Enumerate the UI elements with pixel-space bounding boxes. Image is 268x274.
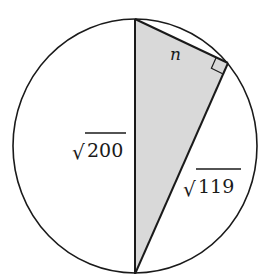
label-sqrt-119: √ 119 (183, 169, 241, 201)
svg-text:√: √ (72, 140, 85, 164)
shaded-triangle (135, 19, 228, 274)
label-sqrt-200: √ 200 (72, 133, 126, 164)
diagram-canvas: n √ 200 √ 119 (0, 0, 268, 274)
svg-text:119: 119 (198, 175, 234, 197)
svg-text:200: 200 (87, 139, 123, 161)
svg-text:√: √ (183, 177, 196, 201)
label-n: n (170, 44, 181, 64)
